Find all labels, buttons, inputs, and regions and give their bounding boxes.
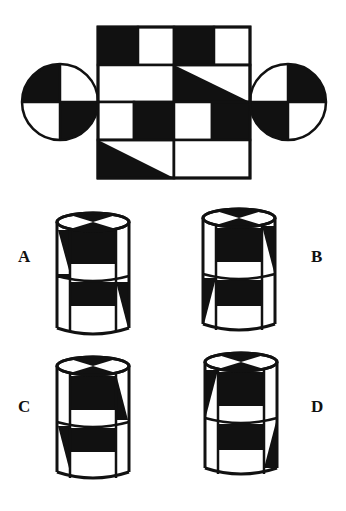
puzzle-drawing: A B bbox=[0, 0, 346, 511]
cylinder-option-a[interactable] bbox=[56, 213, 130, 334]
option-label-d: D bbox=[311, 397, 323, 416]
puzzle-figure: A B bbox=[0, 0, 346, 511]
cylinder-net bbox=[98, 27, 250, 178]
cylinder-option-b[interactable] bbox=[202, 209, 276, 330]
option-label-b: B bbox=[311, 247, 322, 266]
option-label-c: C bbox=[18, 397, 30, 416]
right-cap-circle bbox=[250, 64, 326, 140]
cylinder-option-c[interactable] bbox=[56, 357, 130, 478]
cylinder-option-d[interactable] bbox=[204, 353, 278, 474]
option-label-a: A bbox=[18, 247, 31, 266]
left-cap-circle bbox=[22, 64, 98, 140]
